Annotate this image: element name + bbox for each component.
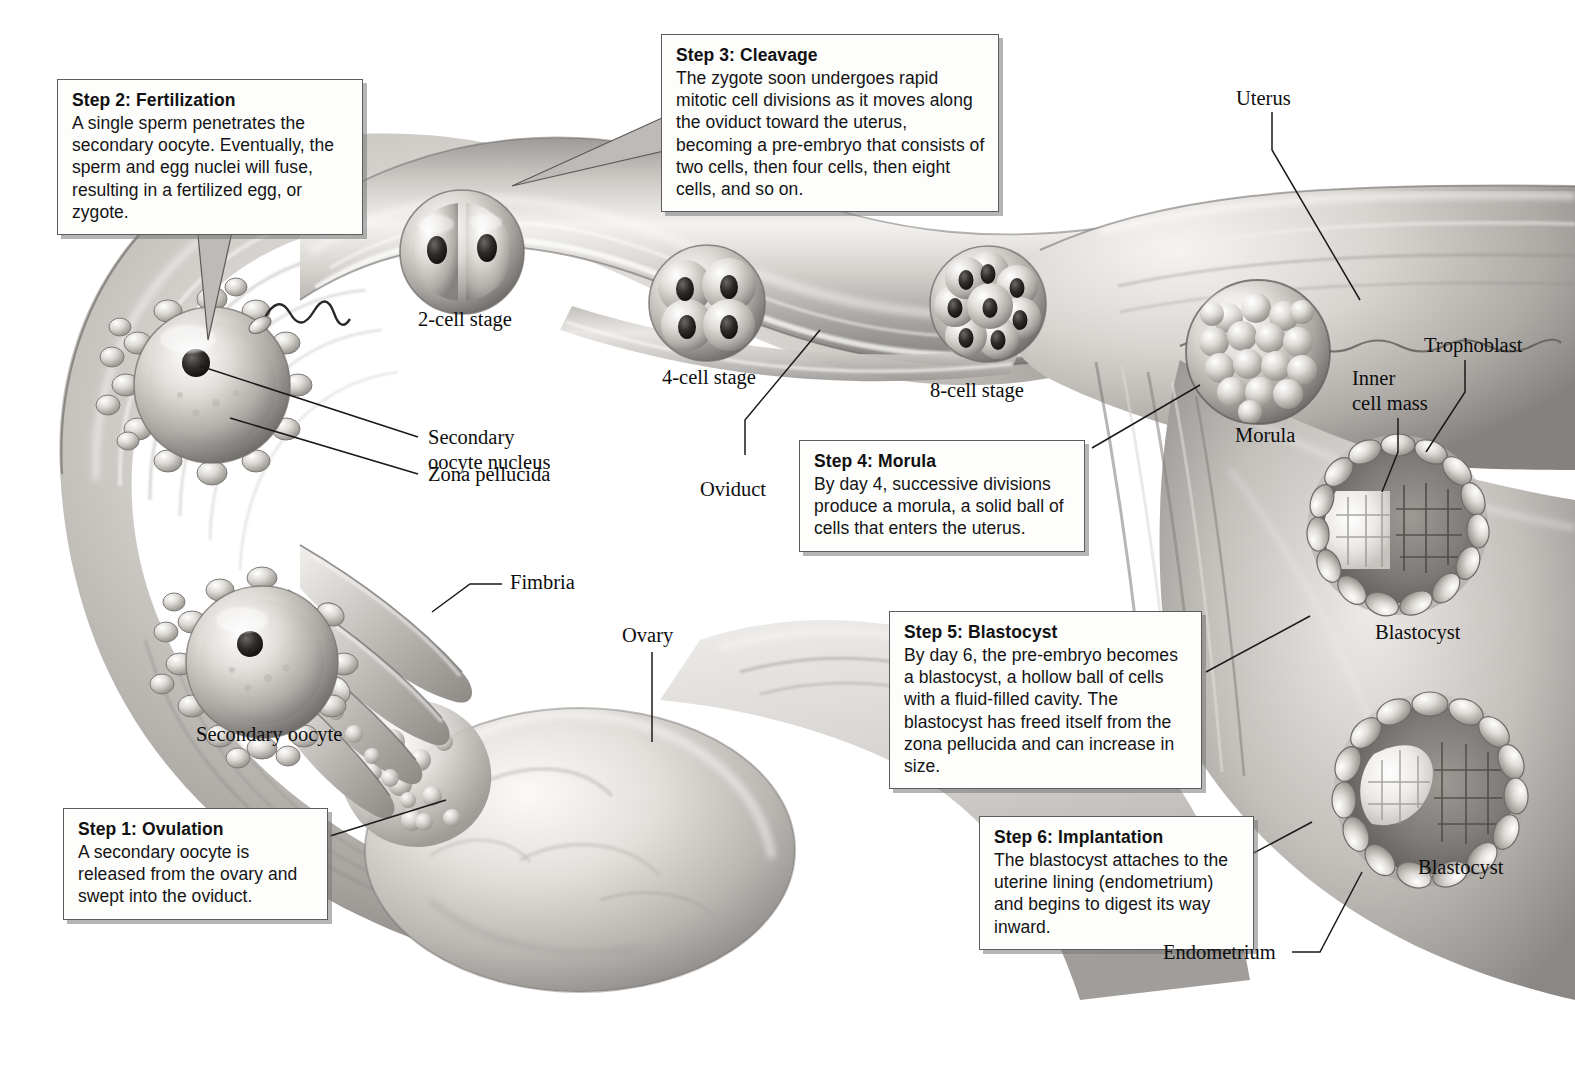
step-box-step6[interactable]: Step 6: Implantation The blastocyst atta… [979,816,1254,950]
step-box-step3[interactable]: Step 3: Cleavage The zygote soon undergo… [661,34,999,212]
step5-body: By day 6, the pre-embryo becomes a blast… [904,644,1188,777]
label-morula: Morula [1235,423,1295,448]
step3-body: The zygote soon undergoes rapid mitotic … [676,67,985,200]
label-secondary-oocyte: Secondary oocyte [196,722,342,747]
label-trophoblast: Trophoblast [1424,333,1522,358]
label-zona-pellucida: Zona pellucida [428,462,550,487]
step3-title: Step 3: Cleavage [676,44,985,66]
label-oviduct: Oviduct [700,477,766,502]
step6-body: The blastocyst attaches to the uterine l… [994,849,1240,938]
label-endometrium: Endometrium [1163,940,1276,965]
step-box-step5[interactable]: Step 5: Blastocyst By day 6, the pre-emb… [889,611,1202,789]
label-2-cell-stage: 2-cell stage [418,307,512,332]
step4-title: Step 4: Morula [814,450,1071,472]
step1-body: A secondary oocyte is released from the … [78,841,314,907]
figure-canvas: Step 2: Fertilization A single sperm pen… [0,0,1575,1070]
eight-cell-stage-cell [930,246,1046,362]
step2-body: A single sperm penetrates the secondary … [72,112,349,223]
label-blastocyst-lower: Blastocyst [1418,855,1503,880]
step2-title: Step 2: Fertilization [72,89,349,111]
step-box-step4[interactable]: Step 4: Morula By day 4, successive divi… [799,440,1085,552]
step4-body: By day 4, successive divisions produce a… [814,473,1071,539]
label-fimbria: Fimbria [510,570,575,595]
step-box-step1[interactable]: Step 1: Ovulation A secondary oocyte is … [63,808,328,920]
step1-title: Step 1: Ovulation [78,818,314,840]
step6-title: Step 6: Implantation [994,826,1240,848]
label-4-cell-stage: 4-cell stage [662,365,756,390]
step-box-step2[interactable]: Step 2: Fertilization A single sperm pen… [57,79,363,235]
label-8-cell-stage: 8-cell stage [930,378,1024,403]
four-cell-stage-cell [649,245,765,361]
label-ovary: Ovary [622,623,673,648]
label-uterus: Uterus [1236,86,1291,111]
label-inner-cell-mass: Inner cell mass [1352,366,1428,415]
label-blastocyst-upper: Blastocyst [1375,620,1460,645]
two-cell-stage-cell [400,190,524,314]
step5-title: Step 5: Blastocyst [904,621,1188,643]
morula-cell [1186,280,1330,424]
